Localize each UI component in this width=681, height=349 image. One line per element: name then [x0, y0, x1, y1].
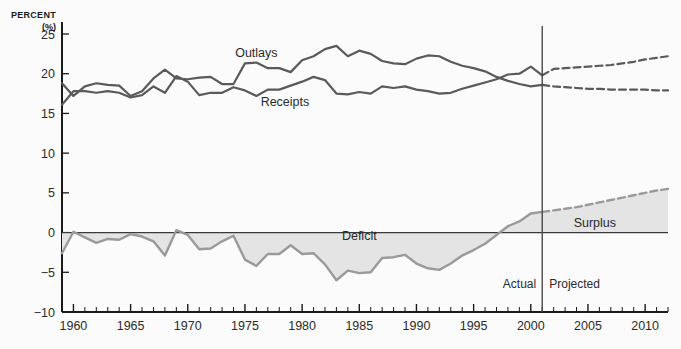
projected-label: Projected: [549, 277, 600, 291]
y-axis-units: (%): [42, 22, 56, 32]
annotation-surplus: Surplus: [574, 216, 616, 230]
y-tick-label: 5: [48, 186, 55, 200]
x-tick-label: 2005: [574, 319, 602, 333]
x-tick-label: 2000: [517, 319, 545, 333]
x-tick-label: 2010: [631, 319, 659, 333]
x-tick-label: 1970: [174, 319, 202, 333]
x-tick-label: 1995: [460, 319, 488, 333]
y-tick-label: 0: [48, 226, 55, 240]
area-deficit-surplus: [62, 212, 542, 280]
y-axis-title: PERCENT: [11, 10, 56, 20]
annotation-outlays: Outlays: [235, 46, 277, 60]
y-tick-label: 15: [41, 107, 55, 121]
x-tick-label: 1975: [231, 319, 259, 333]
x-tick-label: 1960: [60, 319, 88, 333]
x-tick-label: 1990: [403, 319, 431, 333]
y-tick-label: 10: [41, 147, 55, 161]
annotation-deficit: Deficit: [342, 229, 377, 243]
x-tick-label: 1985: [345, 319, 373, 333]
actual-label: Actual: [503, 277, 536, 291]
budget-chart: −10−50510152025PERCENT(%)196019651970197…: [0, 0, 681, 349]
x-tick-label: 1965: [117, 319, 145, 333]
annotation-receipts: Receipts: [261, 95, 310, 109]
series-line-outlays-projected-: [542, 85, 668, 91]
series-line-outlays: [62, 46, 542, 96]
y-tick-label: −10: [34, 306, 55, 320]
series-line-receipts-projected-: [542, 56, 668, 75]
x-tick-label: 1980: [288, 319, 316, 333]
y-tick-label: 20: [41, 67, 55, 81]
chart-page: −10−50510152025PERCENT(%)196019651970197…: [0, 0, 681, 349]
y-tick-label: −5: [41, 266, 55, 280]
